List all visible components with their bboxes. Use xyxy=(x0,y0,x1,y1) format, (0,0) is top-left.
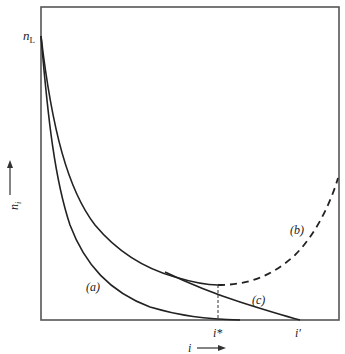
curve-b-dashed xyxy=(218,178,338,285)
x-axis-arrow-icon xyxy=(197,345,226,351)
curve-b-label: (b) xyxy=(290,223,304,237)
x-axis-label: i xyxy=(188,341,191,354)
n-l-label: nL xyxy=(23,28,35,45)
svg-text:ni: ni xyxy=(7,202,23,210)
plot-frame xyxy=(41,7,339,320)
i-star-label: i* xyxy=(213,326,222,340)
curve-a-label: (a) xyxy=(86,280,100,294)
i-prime-label: i′ xyxy=(295,326,301,340)
diagram-canvas: nL ni (a) (b) (c) i* i′ i xyxy=(0,0,345,354)
y-axis-label: ni xyxy=(7,202,23,210)
y-axis-arrow-icon xyxy=(7,160,13,195)
curve-b xyxy=(41,36,218,285)
curve-c-label: (c) xyxy=(252,293,265,307)
